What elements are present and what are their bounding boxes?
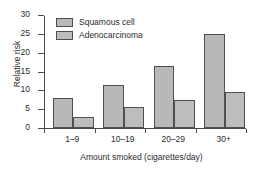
bar-adenocarcinoma-3 — [225, 92, 246, 128]
x-tick-label: 30+ — [191, 134, 253, 145]
y-axis-title: Relative risk — [11, 9, 23, 119]
bar-squamous-cell-0 — [53, 98, 74, 128]
legend-swatch-icon — [56, 18, 73, 27]
y-tick-label: 30 — [21, 9, 30, 20]
y-tick-label: 15 — [21, 66, 30, 77]
bar-adenocarcinoma-0 — [73, 117, 94, 128]
x-tick — [145, 129, 146, 133]
x-axis-title: Amount smoked (cigarettes/day) — [30, 152, 253, 162]
y-tick-label: 20 — [21, 47, 30, 58]
x-tick — [196, 129, 197, 133]
y-tick: 5 — [38, 109, 44, 110]
bar-squamous-cell-1 — [103, 85, 124, 128]
bar-adenocarcinoma-1 — [124, 107, 145, 128]
bar-squamous-cell-3 — [204, 34, 225, 128]
x-tick — [44, 129, 45, 133]
x-tick — [246, 129, 247, 133]
y-tick-label: 5 — [25, 103, 30, 114]
y-tick: 20 — [38, 53, 44, 54]
y-tick-label: 10 — [21, 84, 30, 95]
y-tick: 25 — [38, 34, 44, 35]
y-tick-label: 25 — [21, 28, 30, 39]
relative-risk-bar-chart: Relative risk 051015202530 1–910–1920–29… — [0, 0, 253, 170]
bar-squamous-cell-2 — [154, 66, 175, 128]
y-tick-label: 0 — [25, 122, 30, 133]
legend-label: Squamous cell — [79, 17, 135, 28]
bar-adenocarcinoma-2 — [174, 100, 195, 128]
legend-swatch-icon — [56, 31, 73, 40]
x-tick — [95, 129, 96, 133]
legend: Squamous cellAdenocarcinoma — [56, 17, 143, 43]
y-tick: 30 — [38, 15, 44, 16]
bar-group — [204, 16, 245, 128]
legend-item-1: Adenocarcinoma — [56, 30, 143, 41]
legend-item-0: Squamous cell — [56, 17, 143, 28]
y-tick: 15 — [38, 72, 44, 73]
y-tick: 10 — [38, 90, 44, 91]
bar-group — [154, 16, 195, 128]
legend-label: Adenocarcinoma — [79, 30, 143, 41]
